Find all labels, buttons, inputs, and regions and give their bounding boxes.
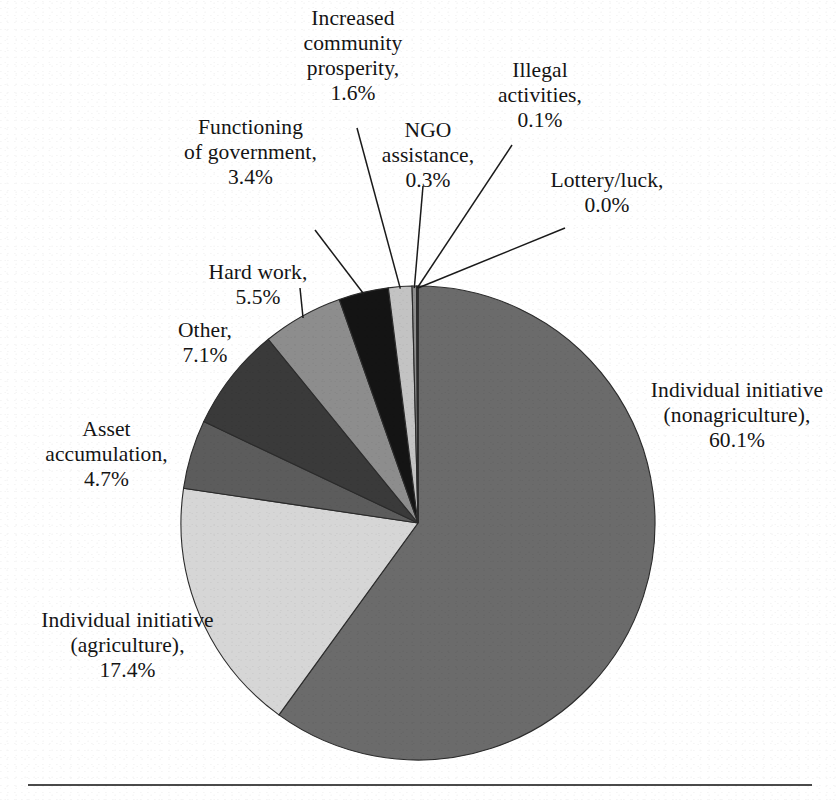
slice-label-ngo-assistance: NGO assistance, 0.3% — [358, 118, 498, 193]
slice-label-functioning-of-government: Functioning of government, 3.4% — [148, 115, 353, 190]
slice-label-individual-initiative-agriculture: Individual initiative (agriculture), 17.… — [0, 608, 255, 683]
leader-line — [418, 228, 565, 288]
pie-chart-figure: Increased community prosperity, 1.6% Ill… — [0, 0, 838, 802]
slice-label-individual-initiative-nonagriculture: Individual initiative (nonagriculture), … — [636, 378, 838, 453]
slice-label-asset-accumulation: Asset accumulation, 4.7% — [14, 417, 199, 492]
slice-label-other: Other, 7.1% — [130, 318, 280, 368]
slice-label-lottery-luck: Lottery/luck, 0.0% — [517, 168, 697, 218]
slice-label-increased-community-prosperity: Increased community prosperity, 1.6% — [253, 6, 453, 106]
leader-line — [414, 186, 423, 288]
slice-label-hard-work: Hard work, 5.5% — [163, 260, 353, 310]
